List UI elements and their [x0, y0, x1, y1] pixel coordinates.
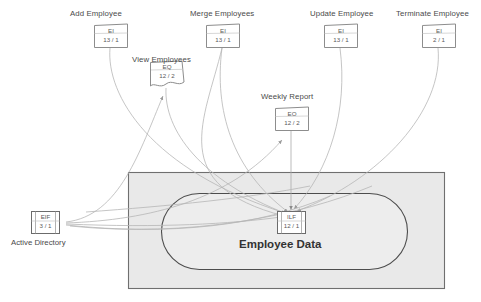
eif-counts: 3 / 1 [31, 222, 60, 230]
transaction-label-add-employee: Add Employee [70, 9, 122, 18]
eif-type: EIF [31, 213, 60, 221]
transaction-counts-view-employees: 12 / 2 [150, 72, 184, 80]
transaction-counts-merge-employees: 13 / 1 [206, 36, 240, 44]
employee-data-label: Employee Data [239, 238, 321, 250]
diagram-canvas [0, 0, 481, 302]
transaction-label-terminate-employee: Terminate Employee [396, 9, 469, 18]
transaction-counts-terminate-employee: 2 / 1 [422, 36, 456, 44]
transaction-type-weekly-report: EO [275, 110, 309, 118]
transaction-type-update-employee: EI [324, 27, 358, 35]
transaction-label-update-employee: Update Employee [310, 9, 373, 18]
ilf-counts: 12 / 1 [277, 222, 306, 230]
transaction-counts-weekly-report: 12 / 2 [275, 119, 309, 127]
transaction-counts-add-employee: 13 / 1 [94, 36, 128, 44]
transaction-type-merge-employees: EI [206, 27, 240, 35]
ilf-type: ILF [277, 213, 306, 221]
transaction-type-view-employees: EQ [150, 63, 184, 71]
transaction-counts-update-employee: 13 / 1 [324, 36, 358, 44]
transaction-type-add-employee: EI [94, 27, 128, 35]
transaction-label-weekly-report: Weekly Report [261, 92, 313, 101]
transaction-type-terminate-employee: EI [422, 27, 456, 35]
transaction-label-merge-employees: Merge Employees [190, 9, 254, 18]
active-directory-label: Active Directory [11, 238, 66, 247]
